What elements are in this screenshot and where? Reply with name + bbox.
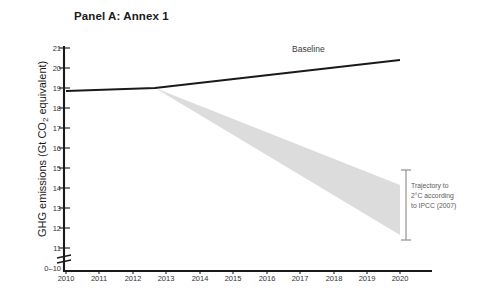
trajectory-annotation-line-2: 2°C according [411, 191, 483, 201]
plot-area [0, 0, 487, 298]
chart-figure: Panel A: Annex 1 GHG emissions (Gt CO2 e… [0, 0, 487, 298]
trajectory-annotation: Trajectory to 2°C according to IPCC (200… [411, 181, 483, 212]
trajectory-annotation-line-3: to IPCC (2007) [411, 201, 483, 211]
trajectory-annotation-line-1: Trajectory to [411, 181, 483, 191]
baseline-label: Baseline [292, 44, 325, 54]
baseline-line [66, 60, 400, 91]
x-tick-2020: 2020 [380, 275, 420, 283]
x-axis-tick-labels: 2010 2011 2012 2013 2014 2015 2016 2017 … [0, 275, 487, 289]
trajectory-band [155, 88, 400, 235]
trajectory-bracket [401, 170, 411, 240]
